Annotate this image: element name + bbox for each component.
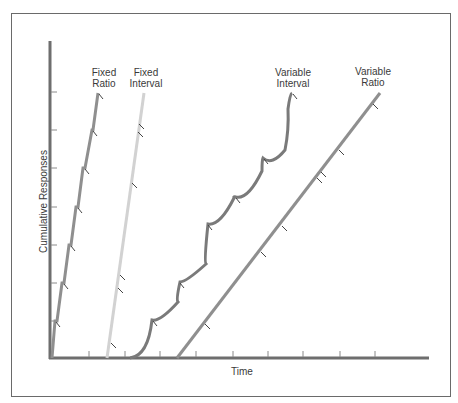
y-ticks <box>51 92 57 321</box>
x-ticks <box>89 351 375 357</box>
y-axis-label: Cumulative Responses <box>38 147 49 257</box>
label-variable-interval: Variable Interval <box>270 67 316 89</box>
series-variable-interval <box>130 93 297 358</box>
label-fixed-ratio: Fixed Ratio <box>84 67 124 89</box>
series-fixed-interval <box>107 93 144 358</box>
label-variable-ratio: Variable Ratio <box>350 66 396 88</box>
chart-plot <box>0 0 458 403</box>
series-fixed-ratio <box>52 93 103 358</box>
label-fixed-interval: Fixed Interval <box>124 67 168 89</box>
x-axis-label: Time <box>224 366 260 377</box>
